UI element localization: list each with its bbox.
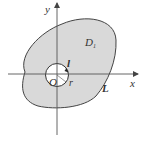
outer-curve-label: L — [101, 82, 109, 94]
diagram: y x D1 l O r L — [0, 0, 144, 144]
region-label-subscript: 1 — [93, 43, 96, 49]
x-axis-label: x — [129, 77, 135, 89]
origin-label: O — [49, 76, 57, 88]
region-label-main: D — [84, 36, 93, 48]
y-axis-label: y — [44, 3, 50, 15]
radius-label: r — [69, 77, 73, 88]
